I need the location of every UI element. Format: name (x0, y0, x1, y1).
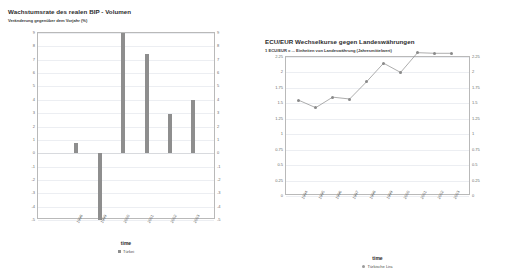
left-chart-subtitle: Veränderung gegenüber dem Vorjahr (%) (8, 18, 87, 23)
bar (121, 33, 125, 153)
data-point (382, 62, 385, 65)
y-tick-label: 8 (33, 44, 35, 48)
y-tick-label: 0.5 (277, 163, 283, 167)
y-tick-label: 0 (281, 194, 283, 198)
right-chart-subtitle: 1 ECU/EUR = ... Einheiten von Landeswähr… (265, 48, 392, 53)
y-tick-label: 7 (33, 58, 35, 62)
gridline (38, 60, 214, 61)
data-point (433, 52, 436, 55)
y-tick-label: 3 (33, 111, 35, 115)
y-tick-label: 9 (33, 31, 35, 35)
y-tick-label: 0 (472, 194, 474, 198)
y-tick-label: 0 (33, 151, 35, 155)
gridline (38, 113, 214, 114)
y-tick-label: -5 (217, 218, 221, 222)
left-chart-legend: Türkei (37, 249, 215, 254)
bar (74, 143, 78, 154)
y-tick-label: -3 (31, 191, 35, 195)
gridline (38, 193, 214, 194)
y-tick-label: -2 (31, 178, 35, 182)
left-chart-title: Wachstumsrate des realen BIP - Volumen (8, 8, 131, 15)
gridline (38, 140, 214, 141)
x-tick-label: 2003 (193, 214, 201, 224)
y-tick-label: 6 (33, 71, 35, 75)
y-tick-label: 0.25 (472, 179, 480, 183)
gridline (38, 86, 214, 87)
y-tick-label: -4 (31, 205, 35, 209)
y-tick-label: 1.25 (472, 117, 480, 121)
y-tick-label: 2 (33, 125, 35, 129)
left-plot-area: 9876543210-1-2-3-4-5 9876543210-1-2-3-4-… (37, 32, 215, 219)
right-line-path (286, 57, 471, 196)
y-tick-label: 3 (217, 111, 219, 115)
y-tick-label: 1 (217, 138, 219, 142)
legend-swatch-turkische-lira (362, 265, 365, 268)
gridline (38, 207, 214, 208)
y-tick-label: 1.75 (472, 86, 480, 90)
y-tick-label: -3 (217, 191, 221, 195)
data-point (416, 51, 419, 54)
y-tick-label: 2 (472, 70, 474, 74)
x-tick-label: 2002 (170, 214, 178, 224)
right-chart-legend: Türkische Lira (285, 264, 470, 269)
y-tick-label: 8 (217, 44, 219, 48)
gridline (38, 33, 214, 34)
gdp-growth-chart-panel: Wachstumsrate des realen BIP - Volumen V… (0, 0, 252, 279)
y-tick-label: 2 (217, 125, 219, 129)
y-tick-label: 1.5 (277, 101, 283, 105)
y-tick-label: -1 (31, 165, 35, 169)
data-point (331, 96, 334, 99)
data-point (297, 99, 300, 102)
data-point (399, 71, 402, 74)
y-tick-label: 1 (472, 132, 474, 136)
gridline (38, 167, 214, 168)
exchange-rate-chart-panel: ECU/EUR Wechselkurse gegen Landeswährung… (252, 0, 505, 279)
right-x-axis-title: time (285, 255, 470, 261)
y-tick-label: 1.75 (275, 86, 283, 90)
bar (98, 153, 102, 220)
data-point (450, 52, 453, 55)
bar (168, 114, 172, 153)
gridline (38, 73, 214, 74)
y-tick-label: 6 (217, 71, 219, 75)
data-point (348, 98, 351, 101)
legend-swatch-turkei (118, 250, 121, 253)
y-tick-label: 0 (217, 151, 219, 155)
right-chart-title: ECU/EUR Wechselkurse gegen Landeswährung… (265, 38, 415, 45)
y-tick-label: 2 (281, 70, 283, 74)
right-plot-area: 00.250.50.7511.251.51.7522.25 00.250.50.… (285, 56, 470, 195)
y-tick-label: 4 (217, 98, 219, 102)
y-tick-label: 1 (33, 138, 35, 142)
y-tick-label: 9 (217, 31, 219, 35)
y-tick-label: 0.25 (275, 179, 283, 183)
y-tick-label: -2 (217, 178, 221, 182)
y-tick-label: 4 (33, 98, 35, 102)
y-tick-label: 0.75 (472, 148, 480, 152)
y-tick-label: 1.25 (275, 117, 283, 121)
gridline (38, 180, 214, 181)
y-tick-label: 5 (33, 84, 35, 88)
legend-label-turkische-lira: Türkische Lira (367, 264, 392, 269)
y-tick-label: 5 (217, 84, 219, 88)
gridline (38, 100, 214, 101)
left-x-axis-title: time (37, 240, 215, 246)
y-tick-label: -4 (217, 205, 221, 209)
y-tick-label: 2.25 (275, 55, 283, 59)
y-tick-label: 1.5 (472, 101, 478, 105)
gridline (38, 127, 214, 128)
y-tick-label: 0.75 (275, 148, 283, 152)
bar (191, 100, 195, 153)
zero-line (38, 153, 214, 154)
x-tick-label: 1998 (76, 214, 84, 224)
x-tick-label: 2000 (123, 214, 131, 224)
y-tick-label: 7 (217, 58, 219, 62)
gridline (38, 46, 214, 47)
y-tick-label: -1 (217, 165, 221, 169)
y-tick-label: -5 (31, 218, 35, 222)
x-tick-label: 1999 (100, 214, 108, 224)
legend-label-turkei: Türkei (123, 249, 134, 254)
bar (145, 54, 149, 153)
y-tick-label: 0.5 (472, 163, 478, 167)
y-tick-label: 1 (281, 132, 283, 136)
y-tick-label: 2.25 (472, 55, 480, 59)
